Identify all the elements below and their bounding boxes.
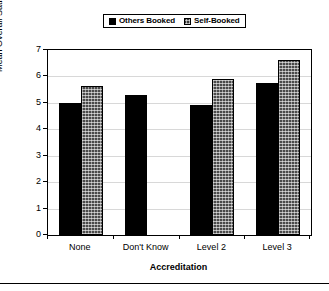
y-tick-mark bbox=[43, 102, 47, 103]
x-tick-mark bbox=[113, 235, 114, 239]
x-tick-mark bbox=[179, 235, 180, 239]
footer-divider bbox=[0, 283, 329, 284]
legend-item-others-booked: Others Booked bbox=[109, 17, 175, 25]
x-tick-mark bbox=[309, 235, 310, 239]
legend-swatch-self-booked-icon bbox=[184, 18, 191, 25]
y-axis-ticks: 01234567 bbox=[47, 49, 310, 234]
y-tick-mark bbox=[43, 181, 47, 182]
y-tick-mark bbox=[43, 155, 47, 156]
legend-swatch-others-booked-icon bbox=[109, 18, 116, 25]
y-tick-label: 1 bbox=[23, 203, 41, 213]
y-tick-mark bbox=[43, 128, 47, 129]
legend-item-self-booked: Self-Booked bbox=[184, 17, 240, 25]
chart-figure: Others Booked Self-Booked Mean Overall S… bbox=[0, 0, 329, 291]
x-tick-label: Level 2 bbox=[176, 242, 246, 252]
x-axis-ticks: NoneDon't KnowLevel 2Level 3 bbox=[47, 235, 310, 257]
y-tick-label: 0 bbox=[23, 229, 41, 239]
y-tick-label: 2 bbox=[23, 176, 41, 186]
x-axis-title: Accreditation bbox=[47, 262, 310, 272]
x-tick-mark bbox=[244, 235, 245, 239]
x-tick-label: None bbox=[45, 242, 115, 252]
y-tick-label: 5 bbox=[23, 97, 41, 107]
chart-legend: Others Booked Self-Booked bbox=[103, 14, 246, 28]
y-tick-mark bbox=[43, 49, 47, 50]
y-tick-label: 7 bbox=[23, 44, 41, 54]
x-tick-label: Don't Know bbox=[111, 242, 181, 252]
y-tick-label: 4 bbox=[23, 123, 41, 133]
y-axis-title: Mean Overall Satisfaction bbox=[0, 0, 4, 72]
y-tick-label: 6 bbox=[23, 70, 41, 80]
x-tick-mark bbox=[47, 235, 48, 239]
y-tick-mark bbox=[43, 75, 47, 76]
y-tick-label: 3 bbox=[23, 150, 41, 160]
x-tick-label: Level 3 bbox=[242, 242, 312, 252]
legend-label-others-booked: Others Booked bbox=[119, 17, 175, 25]
legend-label-self-booked: Self-Booked bbox=[194, 17, 240, 25]
y-tick-mark bbox=[43, 208, 47, 209]
